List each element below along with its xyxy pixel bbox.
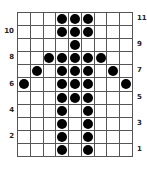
grid-cell-r7-c9 <box>120 65 133 78</box>
stitch-dot <box>70 40 80 50</box>
grid-cell-r5-c5 <box>69 92 82 105</box>
grid-cell-r5-c6 <box>82 92 95 105</box>
stitch-dot <box>57 27 67 37</box>
grid-cell-r3-c1 <box>18 118 31 131</box>
grid-cell-r11-c8 <box>107 13 120 26</box>
grid-cell-r8-c2 <box>31 52 44 65</box>
grid-cell-r9-c9 <box>120 39 133 52</box>
row-label-8: 8 <box>0 54 14 61</box>
grid-cell-r10-c6 <box>82 26 95 39</box>
grid-cell-r4-c2 <box>31 105 44 118</box>
grid-cell-r11-c2 <box>31 13 44 26</box>
grid-cell-r4-c4 <box>56 105 69 118</box>
grid-cell-r4-c8 <box>107 105 120 118</box>
grid-cell-r11-c6 <box>82 13 95 26</box>
grid-cell-r7-c7 <box>95 65 108 78</box>
grid-cell-r9-c1 <box>18 39 31 52</box>
grid-cell-r6-c2 <box>31 78 44 91</box>
grid-cell-r7-c8 <box>107 65 120 78</box>
grid-cell-r10-c8 <box>107 26 120 39</box>
grid-cell-r6-c5 <box>69 78 82 91</box>
grid-cell-r8-c6 <box>82 52 95 65</box>
grid-cell-r5-c7 <box>95 92 108 105</box>
grid-cell-r1-c8 <box>107 144 120 157</box>
row-label-3: 3 <box>137 120 142 127</box>
grid-cell-r5-c1 <box>18 92 31 105</box>
stitch-dot <box>44 53 54 63</box>
grid-cell-r8-c1 <box>18 52 31 65</box>
grid-cell-r5-c2 <box>31 92 44 105</box>
row-label-6: 6 <box>0 81 14 88</box>
row-label-10: 10 <box>0 28 14 35</box>
grid-cell-r3-c4 <box>56 118 69 131</box>
stitch-dot <box>83 106 93 116</box>
grid-cell-r10-c9 <box>120 26 133 39</box>
grid-cell-r2-c4 <box>56 131 69 144</box>
grid-cell-r7-c2 <box>31 65 44 78</box>
stitch-dot <box>70 27 80 37</box>
grid-cell-r6-c9 <box>120 78 133 91</box>
grid-cell-r2-c2 <box>31 131 44 144</box>
stitch-dot <box>57 79 67 89</box>
grid-cell-r3-c7 <box>95 118 108 131</box>
row-label-4: 4 <box>0 107 14 114</box>
stitch-dot <box>57 132 67 142</box>
row-label-2: 2 <box>0 133 14 140</box>
grid-cell-r7-c4 <box>56 65 69 78</box>
grid-cell-r1-c6 <box>82 144 95 157</box>
grid-cell-r8-c7 <box>95 52 108 65</box>
grid-cell-r11-c1 <box>18 13 31 26</box>
stitch-dot <box>83 53 93 63</box>
grid-cell-r2-c1 <box>18 131 31 144</box>
grid-cell-r2-c8 <box>107 131 120 144</box>
grid-cell-r10-c3 <box>44 26 57 39</box>
grid-cell-r11-c4 <box>56 13 69 26</box>
grid-cell-r5-c9 <box>120 92 133 105</box>
stitch-dot <box>57 119 67 129</box>
grid-cell-r8-c3 <box>44 52 57 65</box>
grid-cell-r8-c4 <box>56 52 69 65</box>
grid-cell-r8-c5 <box>69 52 82 65</box>
stitch-dot <box>83 66 93 76</box>
stitch-dot <box>121 79 131 89</box>
grid-cell-r3-c5 <box>69 118 82 131</box>
stitch-chart-grid <box>17 12 133 157</box>
grid-cell-r11-c7 <box>95 13 108 26</box>
grid-cell-r10-c4 <box>56 26 69 39</box>
grid-cell-r7-c1 <box>18 65 31 78</box>
grid-cell-r2-c5 <box>69 131 82 144</box>
grid-cell-r4-c6 <box>82 105 95 118</box>
stitch-dot <box>96 53 106 63</box>
grid-cell-r11-c3 <box>44 13 57 26</box>
grid-cell-r1-c1 <box>18 144 31 157</box>
grid-cell-r10-c1 <box>18 26 31 39</box>
grid-cell-r1-c5 <box>69 144 82 157</box>
grid-cell-r7-c5 <box>69 65 82 78</box>
grid-cell-r2-c9 <box>120 131 133 144</box>
grid-cell-r9-c2 <box>31 39 44 52</box>
stitch-dot <box>19 79 29 89</box>
grid-cell-r3-c2 <box>31 118 44 131</box>
stitch-dot <box>57 14 67 24</box>
grid-cell-r10-c7 <box>95 26 108 39</box>
grid-cell-r6-c3 <box>44 78 57 91</box>
grid-cell-r6-c8 <box>107 78 120 91</box>
stitch-dot <box>57 66 67 76</box>
grid-cell-r3-c6 <box>82 118 95 131</box>
row-label-11: 11 <box>137 15 147 22</box>
grid-cell-r5-c8 <box>107 92 120 105</box>
grid-cell-r6-c6 <box>82 78 95 91</box>
grid-cell-r4-c9 <box>120 105 133 118</box>
grid-cell-r5-c3 <box>44 92 57 105</box>
stitch-dot <box>57 106 67 116</box>
grid-cell-r1-c9 <box>120 144 133 157</box>
grid-cell-r11-c9 <box>120 13 133 26</box>
row-label-1: 1 <box>137 146 142 153</box>
grid-cell-r10-c2 <box>31 26 44 39</box>
grid-cell-r1-c4 <box>56 144 69 157</box>
stitch-dot <box>70 79 80 89</box>
stitch-dot <box>83 132 93 142</box>
grid-cell-r8-c8 <box>107 52 120 65</box>
grid-cell-r2-c7 <box>95 131 108 144</box>
grid-cell-r4-c1 <box>18 105 31 118</box>
